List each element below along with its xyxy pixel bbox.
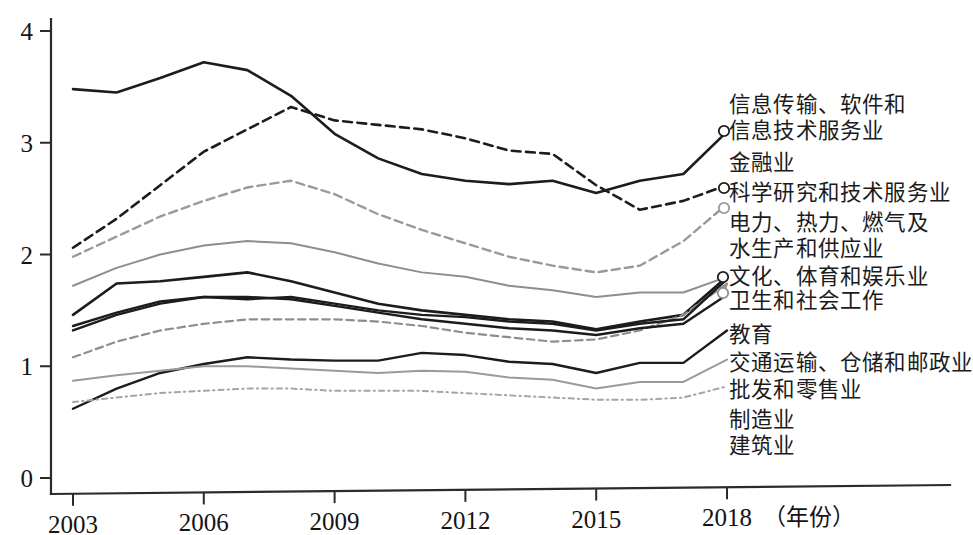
endpoint-marker-science-tech — [719, 203, 729, 213]
series-line-10 — [73, 386, 727, 402]
x-axis-tick-label: 2003 — [48, 511, 98, 535]
series-line-3 — [73, 241, 727, 297]
endpoint-marker-info-tech — [719, 126, 729, 136]
endpoint-marker-health-social — [718, 288, 728, 298]
chart-series-group — [73, 62, 727, 408]
series-line-5 — [73, 284, 727, 358]
chart-axes: 43210200320062009201220152018（年份） — [21, 18, 951, 535]
x-axis-line — [51, 485, 950, 494]
y-axis-tick-label: 3 — [21, 130, 34, 157]
endpoint-marker-culture-sports — [718, 272, 728, 282]
series-endpoint-markers — [718, 126, 729, 298]
y-axis-tick-label: 4 — [21, 18, 34, 45]
x-axis-unit-label: （年份） — [763, 504, 855, 530]
x-axis-tick-label: 2009 — [310, 508, 360, 535]
series-line-1 — [73, 107, 727, 248]
endpoint-marker-finance — [719, 183, 729, 193]
y-axis-tick-label: 0 — [21, 465, 34, 492]
x-axis-tick-label: 2015 — [571, 506, 621, 533]
series-line-9 — [73, 360, 727, 389]
x-axis-tick-label: 2006 — [179, 509, 229, 535]
x-axis-tick-label: 2018 — [702, 504, 752, 531]
y-axis-tick-label: 2 — [21, 242, 34, 269]
series-line-2 — [73, 181, 727, 273]
x-axis-tick-label: 2012 — [440, 507, 490, 534]
y-axis-tick-label: 1 — [21, 353, 34, 380]
